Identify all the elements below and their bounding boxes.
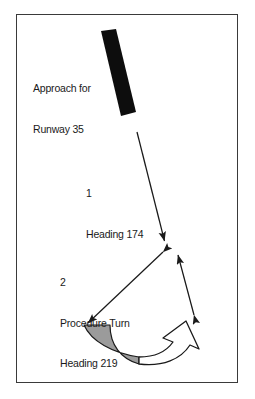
leg1-number: 1 — [86, 187, 143, 201]
runway-label: Approach for Runway 35 — [33, 55, 91, 163]
leg2-heading: Heading 219 — [60, 357, 130, 371]
leg2-label: 2 Procedure Turn Heading 219 — [60, 249, 130, 398]
runway-strip — [101, 29, 136, 116]
outbound-course-arrow — [178, 255, 194, 315]
runway-label-line2: Runway 35 — [33, 123, 91, 137]
runway-label-line1: Approach for — [33, 82, 91, 96]
leg2-title: Procedure Turn — [60, 317, 130, 331]
leg1-heading: Heading 174 — [86, 228, 143, 242]
leg2-number: 2 — [60, 276, 130, 290]
course-reversal-arrow — [139, 321, 199, 365]
diagram-canvas: Approach for Runway 35 1 Heading 174 2 P… — [0, 0, 255, 399]
